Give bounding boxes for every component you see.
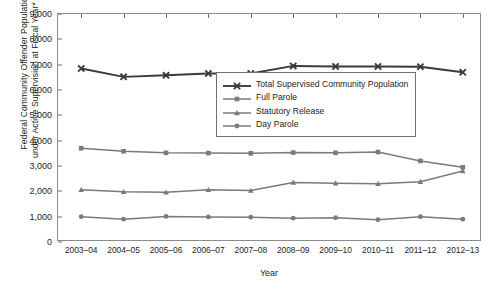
x-axis-tick-mark xyxy=(166,14,167,18)
legend-label: Full Parole xyxy=(256,92,297,102)
x-axis-tick-mark xyxy=(293,14,294,18)
series-3 xyxy=(79,214,465,222)
y-axis-tick-mark xyxy=(58,90,62,91)
legend-item: Total Supervised Community Population xyxy=(222,77,408,91)
y-axis-tick-label: 0 xyxy=(47,237,58,247)
data-point-circle xyxy=(291,216,296,221)
x-axis-tick-label: 2008–09 xyxy=(277,245,310,255)
data-point-square xyxy=(235,97,240,102)
y-axis-tick-label: 9,000 xyxy=(29,9,58,19)
data-point-circle xyxy=(164,214,169,219)
y-axis-tick-label: 6,000 xyxy=(29,85,58,95)
line-chart: Federal Community Offender Population un… xyxy=(0,0,496,287)
x-axis-tick-label: 2005–06 xyxy=(150,245,183,255)
data-point-square xyxy=(249,151,254,156)
data-point-square xyxy=(164,151,169,156)
y-axis-tick-label: 8,000 xyxy=(29,34,58,44)
data-point-circle xyxy=(418,214,423,219)
x-axis-tick-label: 2006–07 xyxy=(192,245,225,255)
y-axis-tick-mark xyxy=(58,64,62,65)
data-point-circle xyxy=(333,215,338,220)
y-axis-tick-label: 5,000 xyxy=(29,110,58,120)
x-axis-tick-label: 2003–04 xyxy=(65,245,98,255)
data-point-circle xyxy=(121,217,126,222)
data-point-circle xyxy=(235,124,240,129)
x-axis-tick-label: 2011–12 xyxy=(404,245,436,255)
series-line xyxy=(81,148,463,167)
legend-marker-circle-icon xyxy=(222,118,252,130)
data-point-square xyxy=(79,146,84,151)
y-axis-tick-mark xyxy=(58,140,62,141)
data-point-square xyxy=(376,150,381,155)
x-axis-tick-mark xyxy=(81,14,82,18)
legend-item: Full Parole xyxy=(222,91,408,105)
x-axis-tick-label: 2009–10 xyxy=(319,245,352,255)
y-axis-tick-mark xyxy=(58,191,62,192)
data-point-circle xyxy=(460,217,465,222)
x-axis-tick-mark xyxy=(463,14,464,18)
y-axis-tick-label: 3,000 xyxy=(29,161,58,171)
x-axis-tick-mark xyxy=(124,14,125,18)
legend-marker-square-icon xyxy=(222,91,252,103)
legend-marker-triangle-icon xyxy=(222,105,252,117)
y-axis-tick-mark xyxy=(58,39,62,40)
series-1 xyxy=(79,146,465,170)
y-axis-tick-label: 1,000 xyxy=(29,212,58,222)
series-2 xyxy=(78,168,465,194)
legend-item: Statutory Release xyxy=(222,104,408,118)
x-axis-title: Year xyxy=(57,268,481,278)
chart-legend: Total Supervised Community PopulationFul… xyxy=(216,72,416,137)
y-axis-tick-label: 4,000 xyxy=(29,136,58,146)
y-axis-tick-mark xyxy=(58,216,62,217)
data-point-square xyxy=(333,151,338,156)
x-axis-tick-mark xyxy=(420,14,421,18)
y-axis-tick-mark xyxy=(58,166,62,167)
x-axis-tick-mark xyxy=(378,14,379,18)
x-axis-tick-label: 2007–08 xyxy=(234,245,267,255)
legend-label: Total Supervised Community Population xyxy=(256,79,408,89)
x-axis-tick-mark xyxy=(251,14,252,18)
x-axis-tick-mark xyxy=(208,14,209,18)
data-point-circle xyxy=(206,215,211,220)
legend-item: Day Parole xyxy=(222,118,408,132)
y-axis-tick-label: 2,000 xyxy=(29,186,58,196)
x-axis-tick-mark xyxy=(336,14,337,18)
data-point-square xyxy=(121,149,126,154)
data-point-square xyxy=(206,151,211,156)
data-point-circle xyxy=(248,215,253,220)
data-point-circle xyxy=(376,217,381,222)
legend-marker-x-icon xyxy=(222,78,252,90)
series-line xyxy=(81,171,463,192)
x-axis-tick-label: 2004–05 xyxy=(107,245,140,255)
legend-label: Statutory Release xyxy=(256,106,324,116)
series-line xyxy=(81,216,463,219)
y-axis-title-line-1: Federal Community Offender Population xyxy=(19,0,30,181)
data-point-square xyxy=(418,159,423,164)
legend-label: Day Parole xyxy=(256,119,299,129)
y-axis-tick-mark xyxy=(58,242,62,243)
x-axis-tick-label: 2012–13 xyxy=(446,245,479,255)
y-axis-tick-label: 7,000 xyxy=(29,60,58,70)
data-point-square xyxy=(291,150,296,155)
data-point-circle xyxy=(79,214,84,219)
x-axis-tick-label: 2010–11 xyxy=(362,245,394,255)
y-axis-tick-mark xyxy=(58,115,62,116)
y-axis-tick-mark xyxy=(58,14,62,15)
